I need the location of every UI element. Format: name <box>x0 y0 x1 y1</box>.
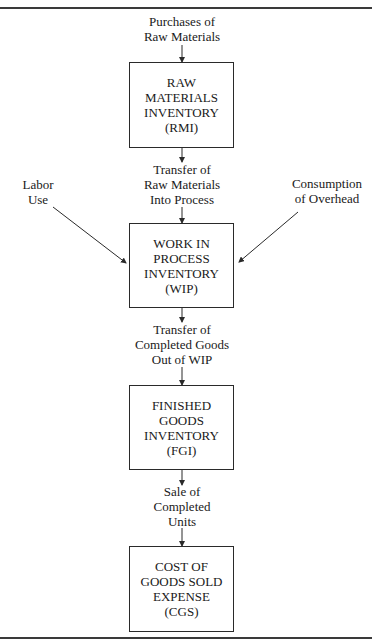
box-line: FINISHED <box>152 398 211 413</box>
label-line: Units <box>168 514 196 529</box>
label-labor-use: Labor Use <box>18 177 58 207</box>
arrow-overhead-to-wip <box>239 212 298 262</box>
label-line: Raw Materials <box>144 177 220 192</box>
label-transfer-raw-materials: Transfer of Raw Materials Into Process <box>127 162 237 207</box>
box-line: EXPENSE <box>153 589 210 604</box>
label-line: Out of WIP <box>152 352 212 367</box>
box-line: (WIP) <box>165 281 198 296</box>
label-line: Purchases of <box>149 14 215 29</box>
box-line: WORK IN <box>153 236 210 251</box>
label-line: Transfer of <box>153 162 211 177</box>
box-line: INVENTORY <box>144 266 219 281</box>
label-line: Completed <box>153 499 210 514</box>
label-line: of Overhead <box>295 191 360 206</box>
label-line: Labor <box>22 177 53 192</box>
label-line: Raw Materials <box>144 29 220 44</box>
box-raw-materials-inventory: RAW MATERIALS INVENTORY (RMI) <box>129 62 234 148</box>
box-work-in-process-inventory: WORK IN PROCESS INVENTORY (WIP) <box>129 223 234 308</box>
box-line: MATERIALS <box>145 90 218 105</box>
box-cost-of-goods-sold-expense: COST OF GOODS SOLD EXPENSE (CGS) <box>129 546 234 632</box>
box-line: RAW <box>167 75 196 90</box>
label-line: Transfer of <box>153 322 211 337</box>
box-line: (RMI) <box>165 120 198 135</box>
label-line: Completed Goods <box>135 337 229 352</box>
box-line: INVENTORY <box>144 105 219 120</box>
arrow-labor-to-wip <box>53 207 126 263</box>
box-line: (FGI) <box>167 443 197 458</box>
box-finished-goods-inventory: FINISHED GOODS INVENTORY (FGI) <box>129 385 234 470</box>
label-line: Use <box>28 192 48 207</box>
box-line: GOODS SOLD <box>141 574 223 589</box>
label-line: Consumption <box>292 176 362 191</box>
label-transfer-completed-goods: Transfer of Completed Goods Out of WIP <box>122 322 242 367</box>
box-line: (CGS) <box>165 604 199 619</box>
label-consumption-of-overhead: Consumption of Overhead <box>284 176 370 206</box>
box-line: INVENTORY <box>144 428 219 443</box>
box-line: PROCESS <box>153 251 209 266</box>
box-line: GOODS <box>159 413 204 428</box>
box-line: COST OF <box>155 559 208 574</box>
label-line: Into Process <box>150 192 214 207</box>
label-purchases: Purchases of Raw Materials <box>132 14 232 44</box>
label-line: Sale of <box>164 484 200 499</box>
label-sale-of-completed-units: Sale of Completed Units <box>137 484 227 529</box>
